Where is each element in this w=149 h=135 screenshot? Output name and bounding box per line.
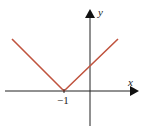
y-axis-label: y <box>97 6 103 18</box>
abs-value-curve <box>12 39 118 91</box>
x-axis-label: x <box>127 76 133 88</box>
graph: y x −1 <box>0 0 149 135</box>
plot-area: y x −1 <box>0 0 149 135</box>
y-axis-arrow-icon <box>85 9 95 18</box>
x-tick-label: −1 <box>57 94 69 106</box>
